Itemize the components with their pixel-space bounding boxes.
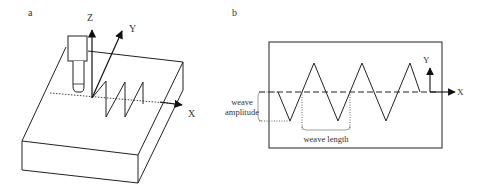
weave-diagram: a Z Y X b [0, 0, 480, 186]
zigzag-weave-path [92, 81, 143, 117]
panel-b-label: b [232, 7, 237, 18]
welding-torch [68, 36, 87, 92]
block-front-face [22, 141, 138, 183]
plan-view-frame [269, 42, 442, 148]
weave-amplitude-label-1: weave [231, 97, 253, 107]
b-y-axis-label: Y [423, 55, 430, 65]
panel-a: a Z Y X [22, 7, 196, 183]
workpiece-block [22, 47, 183, 183]
torch-body [68, 36, 87, 61]
panel-a-label: a [28, 7, 33, 18]
y-axis-arrow [92, 31, 122, 98]
x-axis-label: X [188, 108, 196, 119]
length-bracket [302, 126, 350, 130]
block-right-face [138, 62, 183, 183]
panel-b: b weave amplitude weave length Y X [225, 7, 464, 148]
y-axis-label: Y [129, 23, 136, 34]
b-x-axis-label: X [457, 87, 464, 97]
weave-amplitude-label-2: amplitude [225, 107, 259, 117]
z-axis-label: Z [87, 12, 93, 23]
torch-nozzle [73, 61, 84, 92]
weave-length-label: weave length [303, 134, 349, 144]
